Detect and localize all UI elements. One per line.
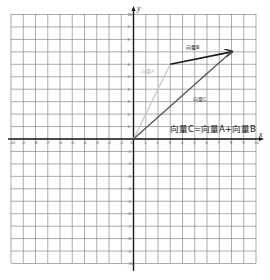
x-axis-label: x: [258, 130, 263, 139]
vector-addition-diagram: -10-9-8-7-6-5-4-3-2-10123456789101098765…: [0, 0, 270, 280]
x-tick-label: 9: [242, 140, 245, 145]
x-tick-label: -9: [22, 140, 26, 145]
x-tick-label: -2: [108, 140, 112, 145]
vector-b-label: 向量B: [186, 44, 200, 51]
vector-b: [170, 52, 231, 64]
x-tick-label: -4: [83, 140, 87, 145]
x-tick-label: 1: [144, 140, 147, 145]
y-axis-arrow-icon: [132, 6, 136, 11]
y-tick-label: 10: [128, 12, 133, 17]
y-tick-label: -10: [128, 261, 135, 266]
x-tick-label: 4: [181, 140, 184, 145]
y-axis-label: y: [136, 4, 141, 13]
x-tick-label: -3: [95, 140, 99, 145]
x-tick-label: 6: [206, 140, 209, 145]
x-tick-label: -7: [46, 140, 50, 145]
x-tick-label: -8: [34, 140, 38, 145]
equation-label: 向量C=向量A+向量B: [170, 124, 256, 134]
axes: [8, 6, 264, 271]
x-tick-label: -1: [120, 140, 124, 145]
x-tick-label: -6: [59, 140, 63, 145]
x-tick-label: 3: [169, 140, 172, 145]
x-tick-label: 7: [218, 140, 221, 145]
vector-c-label: 向量C: [193, 96, 207, 103]
x-tick-label: -10: [10, 140, 17, 145]
x-tick-label: 2: [157, 140, 160, 145]
x-tick-label: -5: [71, 140, 75, 145]
x-tick-label: 8: [230, 140, 233, 145]
x-tick-label: 5: [193, 140, 196, 145]
x-tick-label: 10: [255, 140, 260, 145]
vector-a-label: 向量A: [141, 68, 155, 75]
